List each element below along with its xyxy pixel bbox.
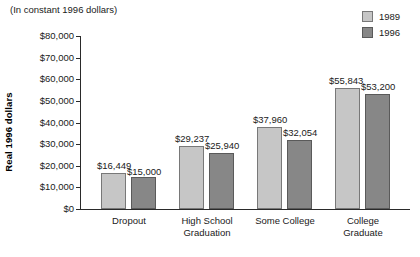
bar-somecollege-1996	[287, 140, 312, 209]
legend-item-1996: 1996	[362, 25, 418, 39]
y-tick-label: $50,000	[4, 96, 74, 106]
y-tick-mark	[76, 58, 81, 59]
y-axis-title-wrapper: Real 1996 dollars	[0, 72, 16, 192]
y-tick-mark	[76, 166, 81, 167]
legend-label-1996: 1996	[379, 27, 400, 38]
y-tick-mark	[76, 101, 81, 102]
y-tick-label: $70,000	[4, 53, 74, 63]
y-tick-mark	[76, 144, 81, 145]
bar-label-somecollege-1996: $32,054	[283, 127, 317, 138]
legend: 1989 1996	[362, 9, 418, 41]
y-tick-label: $80,000	[4, 31, 74, 41]
legend-swatch-icon-1996	[362, 27, 373, 38]
legend-label-1989: 1989	[379, 11, 400, 22]
bar-label-dropout-1996: $15,000	[127, 166, 161, 177]
y-tick-mark	[76, 209, 81, 210]
y-tick-label: $30,000	[4, 139, 74, 149]
x-axis-line	[80, 209, 410, 210]
bar-label-highschool-1996: $25,940	[205, 140, 239, 151]
y-tick-label: $10,000	[4, 182, 74, 192]
legend-item-1989: 1989	[362, 9, 418, 23]
plot-area: $80,000 $70,000 $60,000 $50,000 $40,000 …	[80, 36, 410, 209]
bar-highschool-1989	[179, 146, 204, 209]
bar-label-collegegrad-1996: $53,200	[361, 81, 395, 92]
bar-dropout-1989	[101, 173, 126, 209]
bar-collegegrad-1989	[335, 88, 360, 209]
chart-subtitle: (In constant 1996 dollars)	[10, 4, 117, 16]
y-tick-mark	[76, 79, 81, 80]
x-category-collegegrad-line1: College	[313, 215, 413, 227]
bar-label-somecollege-1989: $37,960	[253, 114, 287, 125]
bar-chart: (In constant 1996 dollars) Real 1996 dol…	[0, 0, 420, 257]
y-tick-mark	[76, 123, 81, 124]
x-category-highschool-line2: Graduation	[157, 227, 257, 239]
y-tick-label: $60,000	[4, 74, 74, 84]
bar-collegegrad-1996	[365, 94, 390, 209]
y-tick-label: $20,000	[4, 161, 74, 171]
x-category-collegegrad-line2: Graduate	[313, 227, 413, 239]
y-tick-label: $0	[4, 204, 74, 214]
bar-dropout-1996	[131, 177, 156, 209]
bar-highschool-1996	[209, 153, 234, 209]
y-tick-mark	[76, 187, 81, 188]
bar-label-collegegrad-1989: $55,843	[329, 75, 363, 86]
legend-swatch-icon-1989	[362, 11, 373, 22]
bar-somecollege-1989	[257, 127, 282, 209]
y-tick-mark	[76, 36, 81, 37]
x-category-collegegrad: College Graduate	[313, 215, 413, 239]
y-tick-label: $40,000	[4, 118, 74, 128]
